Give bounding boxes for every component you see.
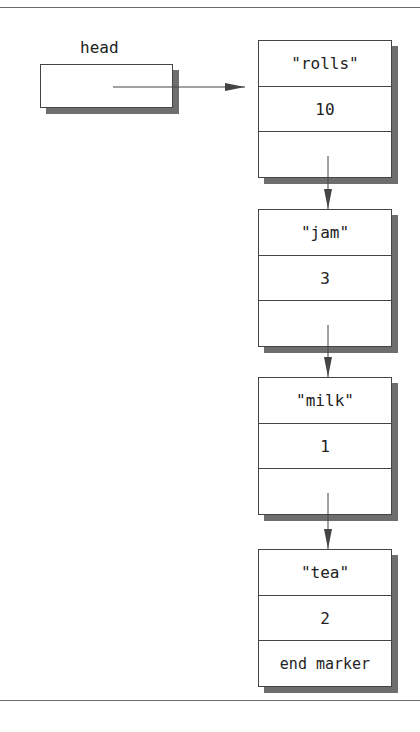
top-rule [0, 7, 420, 8]
node-quantity: 2 [259, 596, 391, 642]
node-quantity: 10 [259, 87, 391, 133]
node-name: "tea" [259, 550, 391, 596]
list-node-3: "milk" 1 [258, 377, 392, 515]
node-next-pointer [259, 301, 391, 346]
list-node-2: "jam" 3 [258, 209, 392, 347]
bottom-rule [0, 700, 420, 701]
node-name: "jam" [259, 210, 391, 256]
node-quantity: 3 [259, 256, 391, 302]
node-name: "rolls" [259, 41, 391, 87]
list-node-4: "tea" 2 end marker [258, 549, 392, 687]
end-marker: end marker [259, 641, 391, 686]
node-name: "milk" [259, 378, 391, 424]
node-next-pointer [259, 132, 391, 177]
head-pointer-box [40, 64, 173, 108]
node-next-pointer [259, 469, 391, 514]
node-quantity: 1 [259, 424, 391, 470]
head-label: head [80, 38, 119, 57]
list-node-1: "rolls" 10 [258, 40, 392, 178]
